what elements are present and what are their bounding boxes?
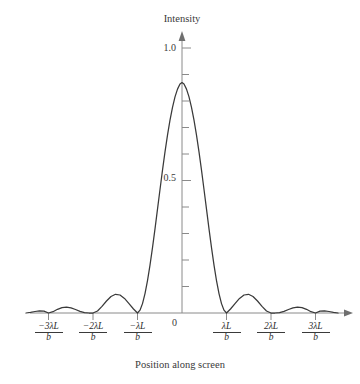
- y-tick-label-0point5: 0.5: [146, 173, 176, 183]
- x-tick-label-minus-2: −2λL b: [70, 322, 116, 343]
- x-tick-denominator: b: [204, 333, 250, 343]
- x-tick-denominator: b: [248, 333, 294, 343]
- diffraction-intensity-figure: Intensity 1.0 0.5 0 −3λL b −2λL b −λL b …: [0, 0, 360, 384]
- x-axis-caption: Position along screen: [80, 360, 280, 371]
- x-tick-denominator: b: [293, 333, 339, 343]
- x-tick-denominator: b: [26, 333, 72, 343]
- y-axis-arrowhead: [179, 31, 186, 41]
- origin-label: 0: [163, 318, 177, 328]
- x-tick-label-minus-1: −λL b: [115, 322, 161, 343]
- x-axis-arrowhead: [344, 310, 353, 317]
- x-tick-label-plus-2: 2λL b: [248, 322, 294, 343]
- x-axis-ticks: [49, 313, 316, 320]
- x-tick-denominator: b: [115, 333, 161, 343]
- y-tick-label-1: 1.0: [146, 43, 176, 53]
- x-tick-label-plus-1: λL b: [204, 322, 250, 343]
- x-tick-label-plus-3: 3λL b: [293, 322, 339, 343]
- x-tick-denominator: b: [70, 333, 116, 343]
- y-axis-title: Intensity: [132, 14, 232, 25]
- x-tick-label-minus-3: −3λL b: [26, 322, 72, 343]
